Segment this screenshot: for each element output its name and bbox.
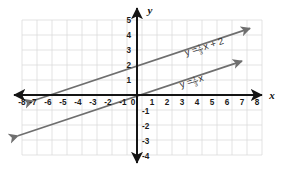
x-tick-1: 1 <box>150 98 155 107</box>
x-tick--6: -6 <box>44 98 52 107</box>
x-tick--4: -4 <box>74 98 82 107</box>
graph-figure: -8 -7 -6 -5 -4 -3 -2 -1 0 1 2 3 4 5 6 7 … <box>0 0 281 169</box>
y-tick-4: 4 <box>126 31 131 40</box>
x-tick--5: -5 <box>59 98 67 107</box>
x-tick--2: -2 <box>104 98 112 107</box>
y-tick-2: 2 <box>126 61 131 70</box>
x-tick--8: -8 <box>18 98 26 107</box>
y-tick-5: 5 <box>126 16 131 25</box>
y-tick-1: 1 <box>126 76 131 85</box>
x-tick-7: 7 <box>240 98 245 107</box>
y-tick--2: -2 <box>142 122 150 131</box>
y-tick-3: 3 <box>126 46 131 55</box>
x-tick-5: 5 <box>210 98 215 107</box>
x-tick-4: 4 <box>195 98 200 107</box>
x-tick-6: 6 <box>225 98 230 107</box>
coordinate-plane: -8 -7 -6 -5 -4 -3 -2 -1 0 1 2 3 4 5 6 7 … <box>0 0 281 169</box>
x-axis-label: x <box>268 89 275 101</box>
x-tick--1: -1 <box>119 98 127 107</box>
y-tick--1: -1 <box>142 107 150 116</box>
y-tick--4: -4 <box>142 152 150 161</box>
y-axis-label: y <box>146 4 153 16</box>
x-tick-0: 0 <box>131 98 136 107</box>
x-tick--7: -7 <box>29 98 37 107</box>
x-tick-8: 8 <box>255 98 260 107</box>
x-tick-2: 2 <box>165 98 170 107</box>
figure-background <box>0 0 281 169</box>
x-tick-3: 3 <box>180 98 185 107</box>
y-tick--3: -3 <box>142 137 150 146</box>
x-tick--3: -3 <box>89 98 97 107</box>
